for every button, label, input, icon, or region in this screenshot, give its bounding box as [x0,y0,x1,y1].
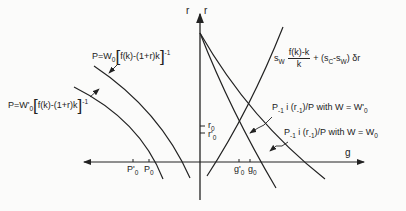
tick-label-g0: g0 [248,165,257,176]
axis-label-r-left: r [186,6,189,16]
label-price-curve-w0-prime: P=W'0[f(k)-(1+r)k]-1 [8,97,88,114]
tick-label-p0: P0 [144,165,154,176]
label-investment-curve-w0: P-1 i (r-1)/P with W = W0 [284,128,378,139]
axis-label-r-right: r [204,6,207,16]
label-savings-curve: sWf(k)-kk+ (sC-sW) δr [274,48,360,69]
tick-label-p0-prime: P'0 [127,165,138,176]
price-curve-w0 [94,66,190,178]
axis-label-g: g [345,148,351,158]
label-investment-curve-w0-prime: P-1 i (r-1)/P with W = W'0 [272,103,368,114]
tick-label-r0-prime: r'0 [208,130,216,141]
label-price-curve-w0: P=W0[f(k)-(1+r)k]-1 [92,48,170,65]
tick-label-g0-prime: g'0 [234,165,244,176]
